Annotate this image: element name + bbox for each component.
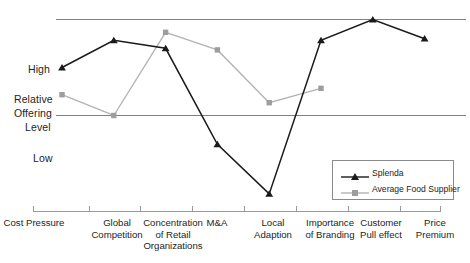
category-line-1: Customer xyxy=(360,217,402,228)
category-line-1: Local xyxy=(262,217,285,228)
legend-label-splenda: Splenda xyxy=(372,168,404,178)
category-line-2: Pull effect xyxy=(360,229,402,240)
x-axis xyxy=(33,206,441,212)
legend-item-splenda: Splenda xyxy=(341,167,404,179)
x-axis-category-7: Price Premium xyxy=(404,217,466,240)
category-line-2: Adaption xyxy=(254,229,292,240)
category-line-1: Price xyxy=(424,217,446,228)
chart-legend: Splenda Average Food Supplier xyxy=(332,160,454,200)
legend-label-average: Average Food Supplier xyxy=(372,184,460,194)
category-line-1: M&A xyxy=(207,217,228,228)
category-line-1: Global xyxy=(103,217,131,228)
category-line-3: Organizations xyxy=(143,240,202,251)
legend-marker-triangle-icon xyxy=(341,168,369,178)
chart-container: High Relative Offering Level Low xyxy=(0,0,470,263)
x-axis-category-3: M&A xyxy=(193,217,241,229)
legend-item-average-food-supplier: Average Food Supplier xyxy=(341,183,460,195)
category-line-1: Cost Pressure xyxy=(4,217,65,228)
legend-marker-square-icon xyxy=(341,184,369,194)
series-average-food-supplier xyxy=(59,30,323,119)
x-axis-category-0: Cost Pressure xyxy=(0,217,68,229)
x-axis-ticks xyxy=(34,206,441,212)
category-line-2: Premium xyxy=(416,229,454,240)
category-line-2: of Retail xyxy=(155,229,190,240)
gridlines xyxy=(56,20,466,116)
